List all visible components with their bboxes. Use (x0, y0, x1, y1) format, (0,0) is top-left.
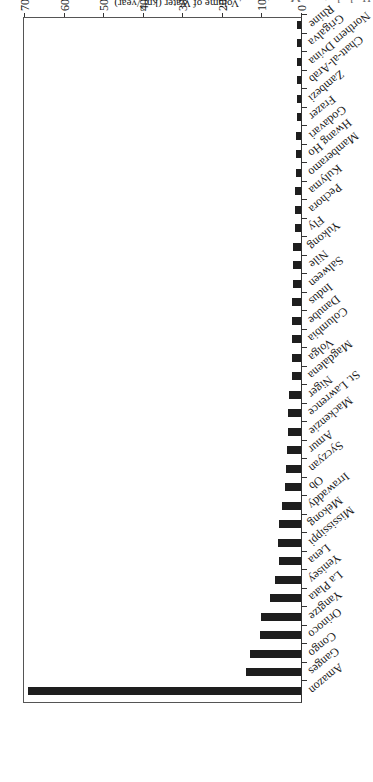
bar (297, 40, 301, 48)
y-tick-mark (301, 163, 307, 164)
bar (288, 410, 301, 418)
bar-row (24, 330, 301, 349)
y-tick-mark (301, 126, 307, 127)
y-tick-mark (301, 514, 307, 515)
y-tick-mark (301, 292, 307, 293)
bar (246, 669, 301, 677)
bar-row (24, 534, 301, 553)
bar (282, 502, 301, 510)
x-tick-mark (261, 13, 262, 17)
bar-row (24, 645, 301, 664)
bar-row (24, 589, 301, 608)
bar-row (24, 164, 301, 183)
y-tick-mark (301, 255, 307, 256)
bar-row (24, 663, 301, 682)
y-tick-mark (301, 89, 307, 90)
y-tick-mark (301, 70, 307, 71)
bar (295, 188, 301, 196)
bar (278, 539, 301, 547)
y-tick-mark (301, 200, 307, 201)
bar-row (24, 626, 301, 645)
y-tick-mark (301, 477, 307, 478)
bar (293, 262, 301, 270)
y-tick-mark (301, 681, 307, 682)
y-tick-mark (301, 551, 307, 552)
x-tick-mark (64, 13, 65, 17)
bar-row (24, 552, 301, 571)
bar-row (24, 608, 301, 627)
bar-row (24, 16, 301, 35)
bar (250, 650, 301, 658)
y-tick-mark (301, 588, 307, 589)
y-tick-mark (301, 607, 307, 608)
y-tick-mark (301, 644, 307, 645)
bar (292, 299, 301, 307)
bar (287, 447, 301, 455)
y-tick-mark (301, 329, 307, 330)
y-tick-mark (301, 144, 307, 145)
y-tick-mark (301, 237, 307, 238)
bar-row (24, 423, 301, 442)
bar-row (24, 497, 301, 516)
x-axis-title: Volume of Water (km3/year) (114, 0, 239, 12)
bar (297, 58, 301, 66)
bar (292, 354, 301, 362)
y-tick-mark (301, 33, 307, 34)
bar (285, 484, 301, 492)
bar-row (24, 312, 301, 331)
y-tick-mark (301, 52, 307, 53)
y-tick-mark (301, 496, 307, 497)
y-tick-mark (301, 440, 307, 441)
bar-row (24, 367, 301, 386)
bar (295, 225, 301, 233)
x-tick-mark (301, 13, 302, 17)
x-tick-mark (103, 13, 104, 17)
bar-row (24, 238, 301, 257)
bar-row (24, 682, 301, 701)
bar (296, 151, 301, 159)
y-tick-mark (301, 348, 307, 349)
bar (297, 21, 301, 29)
y-tick-mark (301, 459, 307, 460)
bar (289, 391, 301, 399)
x-tick-mark (143, 13, 144, 17)
bar (292, 317, 301, 325)
bar (261, 613, 301, 621)
bar (295, 206, 301, 214)
bar (297, 95, 301, 103)
y-tick-mark (301, 422, 307, 423)
bar (288, 428, 301, 436)
bar-row (24, 571, 301, 590)
x-tick-label: 1000 (255, 0, 270, 11)
bar-row (24, 441, 301, 460)
x-tick-label: 7000 (18, 0, 33, 11)
y-tick-mark (301, 662, 307, 663)
bar-row (24, 478, 301, 497)
bar-row (24, 145, 301, 164)
y-tick-mark (301, 107, 307, 108)
bar-row (24, 219, 301, 238)
bar (296, 132, 301, 140)
bar-row (24, 515, 301, 534)
y-tick-mark (301, 403, 307, 404)
bar (297, 114, 301, 122)
bar-row (24, 127, 301, 146)
bar (270, 595, 301, 603)
bar (293, 243, 301, 251)
bar-row (24, 34, 301, 53)
x-tick-label: 0 (295, 5, 310, 11)
bar-row (24, 275, 301, 294)
bar-row (24, 90, 301, 109)
y-tick-mark (301, 366, 307, 367)
y-tick-mark (301, 385, 307, 386)
bar-row (24, 182, 301, 201)
bar-row (24, 293, 301, 312)
x-tick-mark (222, 13, 223, 17)
bar-row (24, 108, 301, 127)
bar (296, 169, 301, 177)
bar (275, 576, 301, 584)
bar (297, 77, 301, 85)
bar (260, 632, 301, 640)
bar-row (24, 404, 301, 423)
